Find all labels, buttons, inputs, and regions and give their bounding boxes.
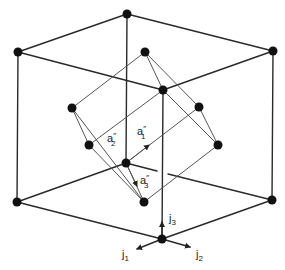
atom <box>269 47 278 56</box>
atom <box>13 198 22 207</box>
label-j2: j2 <box>195 248 203 263</box>
atom <box>214 141 223 150</box>
label-j1: j1 <box>121 248 129 263</box>
atom <box>85 141 94 150</box>
atom <box>14 48 23 57</box>
atom <box>122 159 131 168</box>
atom <box>158 235 167 244</box>
atom <box>195 103 204 112</box>
atom <box>140 198 149 207</box>
atom <box>123 10 132 19</box>
label-a1: a″1 <box>137 124 146 141</box>
label-j3: j3 <box>168 212 176 227</box>
label-a3: a″3 <box>140 173 149 190</box>
atom <box>268 196 277 205</box>
atom <box>141 48 150 57</box>
label-a2: a″2 <box>107 131 116 148</box>
crystal-lattice-diagram: a″1 a″2 a″3 j3 j1 j2 <box>0 0 285 270</box>
atom <box>159 86 168 95</box>
atom <box>68 104 77 113</box>
